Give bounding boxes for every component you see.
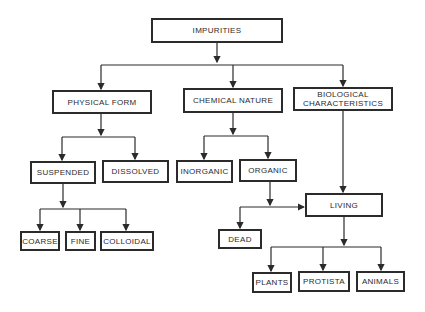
node-organic: ORGANIC: [239, 159, 297, 182]
node-dissolved: DISSOLVED: [102, 160, 169, 183]
node-label: INORGANIC: [180, 167, 228, 176]
node-biological-characteristics: BIOLOGICAL CHARACTERISTICS: [293, 87, 393, 111]
node-label: ANIMALS: [362, 277, 399, 286]
impurities-classification-diagram: IMPURITIES PHYSICAL FORM CHEMICAL NATURE…: [0, 0, 425, 312]
node-label: PROTISTA: [303, 277, 345, 286]
node-label: SUSPENDED: [37, 168, 90, 177]
node-protista: PROTISTA: [298, 271, 350, 292]
node-label: FINE: [71, 237, 90, 246]
node-chemical-nature: CHEMICAL NATURE: [183, 88, 283, 113]
node-label: DEAD: [228, 235, 251, 244]
node-label-line2: CHARACTERISTICS: [303, 99, 383, 108]
node-label: COLLOIDAL: [103, 237, 151, 246]
node-label: LIVING: [330, 201, 358, 210]
node-label: COARSE: [22, 237, 58, 246]
node-label: PHYSICAL FORM: [68, 98, 137, 107]
node-label-line1: BIOLOGICAL: [317, 90, 368, 99]
node-label: ORGANIC: [248, 166, 287, 175]
node-living: LIVING: [305, 193, 383, 217]
node-fine: FINE: [65, 231, 96, 251]
node-impurities: IMPURITIES: [151, 18, 283, 43]
node-label: CHEMICAL NATURE: [193, 96, 273, 105]
node-plants: PLANTS: [252, 272, 292, 293]
node-suspended: SUSPENDED: [30, 161, 96, 184]
node-label: PLANTS: [256, 278, 289, 287]
node-physical-form: PHYSICAL FORM: [52, 90, 152, 114]
node-label: IMPURITIES: [193, 26, 242, 35]
node-coarse: COARSE: [20, 231, 60, 251]
node-animals: ANIMALS: [356, 271, 405, 292]
node-dead: DEAD: [218, 229, 262, 249]
node-label: DISSOLVED: [112, 167, 160, 176]
connector-lines: [0, 0, 425, 312]
node-inorganic: INORGANIC: [176, 160, 233, 183]
node-colloidal: COLLOIDAL: [100, 231, 154, 251]
